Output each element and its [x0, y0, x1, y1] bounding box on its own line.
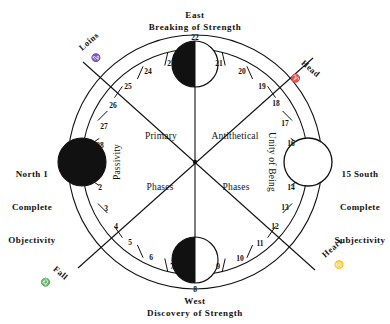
phase-number-13: 13 [281, 204, 289, 212]
phase-number-10: 10 [236, 255, 244, 263]
inner-label-passivity: Passivity [112, 144, 123, 180]
south-line-2: Complete [330, 202, 390, 213]
north-line-3: Objectivity [1, 235, 63, 246]
inner-label-phases-left: Phases [146, 182, 173, 193]
north-line-2: Complete [1, 202, 63, 213]
phase-number-16: 16 [287, 140, 295, 148]
phase-number-21: 21 [215, 60, 223, 68]
inner-label-unity-of-being: Unity of Being [267, 132, 278, 192]
phase-number-18: 18 [272, 100, 280, 108]
phase-number-7: 7 [170, 263, 174, 271]
west-caption: Discovery of Strength [147, 308, 243, 318]
east-caption: Breaking of Strength [149, 22, 242, 32]
phase-number-25: 25 [124, 83, 132, 91]
phase-number-19: 19 [258, 83, 266, 91]
phase-number-14: 14 [287, 184, 295, 192]
east-direction-label: East [185, 10, 204, 20]
phase-number-2: 2 [98, 184, 102, 192]
phase-number-20: 20 [238, 68, 246, 76]
phase-marker-22-east [172, 41, 218, 87]
inner-label-primary: Primary [145, 131, 177, 142]
phase-number-26: 26 [109, 102, 117, 110]
west-direction-label: West [184, 296, 205, 306]
east-phase-number: 22 [191, 34, 199, 42]
phase-number-23: 23 [167, 60, 175, 68]
heart-text: Heart [320, 236, 344, 259]
phase-number-28: 28 [96, 142, 104, 150]
phase-number-12: 12 [271, 223, 279, 231]
loins-text: Loins [77, 30, 101, 53]
phase-number-27: 27 [100, 123, 108, 131]
phase-number-11: 11 [256, 240, 263, 248]
phase-number-6: 6 [149, 254, 153, 262]
west-phase-number: 8 [193, 286, 197, 294]
phase-number-5: 5 [128, 239, 132, 247]
phase-marker-8-west [172, 237, 218, 283]
phase-number-24: 24 [144, 68, 152, 76]
phase-number-17: 17 [281, 120, 289, 128]
north-label-block: North 1 Complete Objectivity [1, 147, 63, 268]
north-line-1: North 1 [1, 169, 63, 180]
south-line-1: 15 South [330, 169, 390, 180]
phase-number-3: 3 [104, 205, 108, 213]
inner-label-phases-right: Phases [222, 182, 249, 193]
center-point [193, 160, 197, 164]
phase-number-9: 9 [216, 263, 220, 271]
phase-number-4: 4 [114, 223, 118, 231]
great-wheel-diagram: East Breaking of Strength 22 8 West Disc… [0, 0, 390, 324]
inner-label-antithetical: Antithetical [211, 131, 258, 142]
